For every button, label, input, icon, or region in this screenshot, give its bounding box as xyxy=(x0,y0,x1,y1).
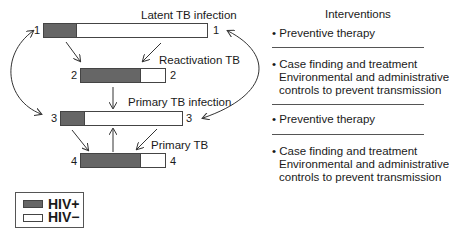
stage-num-left: 3 xyxy=(51,112,57,125)
intervention-line: Case finding and treatment xyxy=(279,145,417,157)
divider xyxy=(272,104,424,105)
stage-label-primary-tb: Primary TB xyxy=(151,139,208,152)
interventions-title: Interventions xyxy=(325,8,391,20)
arrow-primary-infection-to-primary-tb xyxy=(72,130,88,150)
stage-num-left: 4 xyxy=(71,155,77,168)
curved-arrow-left xyxy=(11,31,41,114)
bullet: • xyxy=(272,145,276,157)
intervention-line: Environmental and administrative xyxy=(272,71,449,84)
stage-label-reactivation: Reactivation TB xyxy=(159,54,240,67)
bar-primary-tb-infection xyxy=(60,111,183,126)
stage-num-right: 1 xyxy=(213,24,219,37)
bar-primary-tb xyxy=(80,153,166,168)
intervention-item: • Preventive therapy xyxy=(272,113,375,126)
bullet: • xyxy=(272,113,276,125)
legend-swatch-hiv-negative xyxy=(23,214,43,222)
intervention-line: controls to prevent transmission xyxy=(272,171,449,184)
bar-latent-tb xyxy=(43,23,208,38)
stage-num-right: 3 xyxy=(186,112,192,125)
stage-label-latent: Latent TB infection xyxy=(141,9,237,22)
intervention-line: Environmental and administrative xyxy=(272,158,449,171)
bar-segment-hiv-positive xyxy=(61,112,85,125)
bullet: • xyxy=(272,27,276,39)
intervention-item: • Case finding and treatment Environment… xyxy=(272,58,449,97)
stage-num-left: 2 xyxy=(71,69,77,82)
stage-num-left: 1 xyxy=(34,24,40,37)
bar-segment-hiv-positive xyxy=(81,154,141,167)
bar-reactivation-tb xyxy=(80,68,166,83)
intervention-line: Preventive therapy xyxy=(279,27,375,39)
intervention-item: • Preventive therapy xyxy=(272,27,375,40)
intervention-line: Preventive therapy xyxy=(279,113,375,125)
stage-num-right: 4 xyxy=(170,155,176,168)
intervention-line: Case finding and treatment xyxy=(279,58,417,70)
bullet: • xyxy=(272,58,276,70)
intervention-item: • Case finding and treatment Environment… xyxy=(272,145,449,184)
bar-segment-hiv-positive xyxy=(81,69,141,82)
intervention-line: controls to prevent transmission xyxy=(272,84,449,97)
divider xyxy=(272,47,424,48)
stage-num-right: 2 xyxy=(170,69,176,82)
stage-label-primary-infection: Primary TB infection xyxy=(128,96,231,109)
bar-segment-hiv-positive xyxy=(44,24,77,37)
divider xyxy=(272,134,424,135)
legend: HIV+ HIV− xyxy=(15,192,84,228)
arrow-latent-to-reactivation xyxy=(66,42,80,61)
legend-swatch-hiv-positive xyxy=(23,200,43,208)
legend-label-hiv-negative: HIV− xyxy=(48,210,80,224)
